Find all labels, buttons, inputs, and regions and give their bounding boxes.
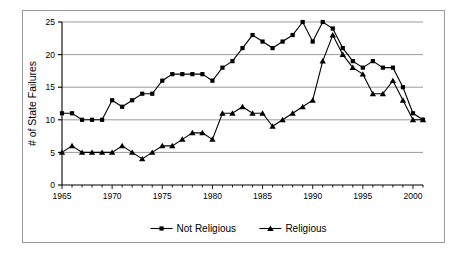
chart-figure: 0510152025 19651970197519801985199019952… <box>0 0 467 260</box>
datapoint-1-1998 <box>390 78 396 83</box>
gridlines-group <box>62 22 423 152</box>
datapoint-0-1976 <box>170 72 174 76</box>
datapoint-0-1983 <box>240 46 244 50</box>
datapoint-0-1965 <box>60 111 64 115</box>
x-tick-label-1995: 1995 <box>353 191 372 201</box>
legend-label-0: Not Religious <box>177 223 236 234</box>
datapoint-0-1978 <box>190 72 194 76</box>
legend-label-1: Religious <box>285 223 326 234</box>
datapoint-1-1983 <box>239 104 245 109</box>
datapoint-0-1988 <box>291 33 295 37</box>
datapoint-0-1985 <box>260 39 264 43</box>
datapoint-0-1972 <box>130 98 134 102</box>
x-tick-label-1980: 1980 <box>203 191 222 201</box>
datapoint-0-1994 <box>351 59 355 63</box>
legend-item-religious[interactable]: Religious <box>259 223 326 234</box>
y-tick-label-0: 0 <box>50 180 55 190</box>
y-tick-label-25: 25 <box>46 17 56 27</box>
datapoint-0-1977 <box>180 72 184 76</box>
datapoint-1-1989 <box>299 104 305 109</box>
datapoint-0-1990 <box>311 39 315 43</box>
datapoint-1-1973 <box>139 156 145 161</box>
datapoint-1-1991 <box>320 58 326 63</box>
legend-marker-square <box>159 226 163 230</box>
y-tick-label-15: 15 <box>46 82 56 92</box>
y-axis-ticks-group: 0510152025 <box>46 17 62 190</box>
y-tick-label-5: 5 <box>50 148 55 158</box>
datapoint-0-2000 <box>411 111 415 115</box>
datapoint-1-1966 <box>69 143 75 148</box>
datapoint-0-1986 <box>270 46 274 50</box>
datapoint-0-1969 <box>100 118 104 122</box>
x-tick-label-2000: 2000 <box>404 191 423 201</box>
y-tick-label-10: 10 <box>46 115 56 125</box>
datapoint-0-1982 <box>230 59 234 63</box>
x-axis-ticks-group: 19651970197519801985199019952000 <box>53 185 423 201</box>
datapoint-0-1981 <box>220 66 224 70</box>
datapoint-0-1993 <box>341 46 345 50</box>
series-line-1 <box>62 35 423 159</box>
data-series-group <box>59 20 426 161</box>
datapoint-0-1967 <box>80 118 84 122</box>
datapoint-0-1997 <box>381 66 385 70</box>
x-tick-label-1965: 1965 <box>53 191 72 201</box>
datapoint-1-1990 <box>310 97 316 102</box>
datapoint-0-1987 <box>281 39 285 43</box>
datapoint-0-1979 <box>200 72 204 76</box>
datapoint-0-1980 <box>210 79 214 83</box>
x-tick-label-1990: 1990 <box>303 191 322 201</box>
datapoint-0-1998 <box>391 66 395 70</box>
series-religious <box>59 32 426 161</box>
datapoint-0-1973 <box>140 92 144 96</box>
legend-item-not-religious[interactable]: Not Religious <box>151 223 236 234</box>
datapoint-0-1991 <box>321 20 325 24</box>
datapoint-0-1975 <box>160 79 164 83</box>
datapoint-1-1995 <box>360 71 366 76</box>
datapoint-1-1971 <box>119 143 125 148</box>
datapoint-0-1970 <box>110 98 114 102</box>
datapoint-0-1992 <box>331 26 335 30</box>
datapoint-0-1974 <box>150 92 154 96</box>
y-axis-label: # of State Failures <box>26 61 38 146</box>
datapoint-0-1971 <box>120 105 124 109</box>
y-axis-title: # of State Failures <box>26 61 38 146</box>
datapoint-1-1988 <box>289 110 295 115</box>
chart-plot-area: 0510152025 19651970197519801985199019952… <box>0 0 467 260</box>
datapoint-0-1999 <box>401 85 405 89</box>
x-tick-label-1975: 1975 <box>153 191 172 201</box>
datapoint-0-1996 <box>371 59 375 63</box>
datapoint-1-1980 <box>209 136 215 141</box>
datapoint-0-1984 <box>250 33 254 37</box>
chart-legend: Not ReligiousReligious <box>151 223 327 234</box>
datapoint-1-1999 <box>400 97 406 102</box>
y-tick-label-20: 20 <box>46 50 56 60</box>
datapoint-1-1977 <box>179 136 185 141</box>
datapoint-0-1995 <box>361 66 365 70</box>
x-tick-label-1985: 1985 <box>253 191 272 201</box>
datapoint-0-1966 <box>70 111 74 115</box>
datapoint-0-1989 <box>301 20 305 24</box>
datapoint-0-1968 <box>90 118 94 122</box>
x-tick-label-1970: 1970 <box>103 191 122 201</box>
